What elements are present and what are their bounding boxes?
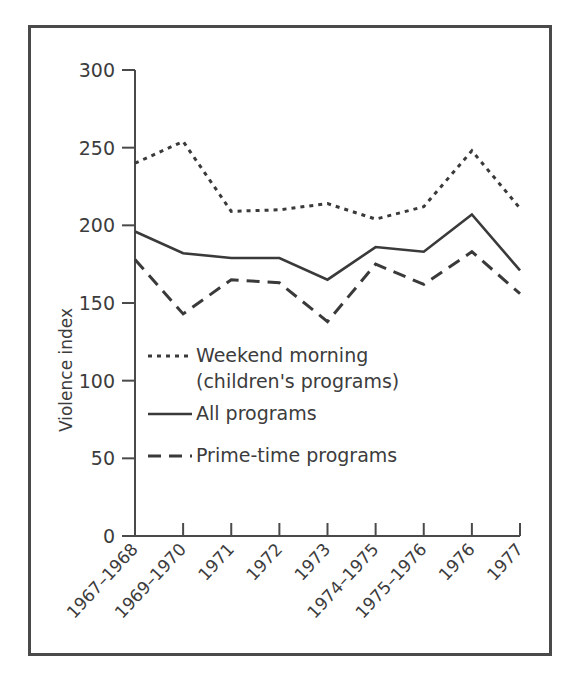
series-line-solid xyxy=(135,214,520,279)
series-line-dashed xyxy=(135,252,520,322)
axes: 300250200150100500 1967–19681969–1970197… xyxy=(56,59,527,622)
data-series xyxy=(135,141,520,321)
chart-svg: 300250200150100500 1967–19681969–1970197… xyxy=(0,0,580,674)
y-axis-ticks xyxy=(122,70,135,536)
legend-label: Weekend morning xyxy=(196,344,368,366)
x-tick-label: 1972 xyxy=(242,539,286,584)
x-tick-label: 1977 xyxy=(483,539,527,584)
x-tick-label: 1971 xyxy=(194,539,238,584)
y-tick-label: 0 xyxy=(103,525,115,547)
y-tick-label: 200 xyxy=(79,214,115,236)
x-tick-label: 1976 xyxy=(435,539,479,584)
y-tick-label: 250 xyxy=(79,137,115,159)
legend-label: All programs xyxy=(196,402,317,424)
chart-legend: Weekend morning(children's programs)All … xyxy=(148,344,399,466)
legend-label-secondary: (children's programs) xyxy=(196,370,399,392)
x-tick-label: 1973 xyxy=(290,539,334,584)
y-tick-label: 100 xyxy=(79,370,115,392)
y-axis-title: Violence index xyxy=(56,308,76,432)
y-tick-label: 150 xyxy=(79,292,115,314)
legend-label: Prime-time programs xyxy=(196,444,397,466)
x-axis-tick-labels: 1967–19681969–19701971197219731974–19751… xyxy=(62,539,526,622)
axis-lines xyxy=(135,70,520,536)
x-axis-ticks xyxy=(135,523,520,536)
y-tick-label: 300 xyxy=(79,59,115,81)
y-tick-label: 50 xyxy=(91,447,115,469)
y-axis-tick-labels: 300250200150100500 xyxy=(79,59,115,547)
series-line-dotted xyxy=(135,141,520,219)
violence-index-line-chart: 300250200150100500 1967–19681969–1970197… xyxy=(0,0,580,674)
